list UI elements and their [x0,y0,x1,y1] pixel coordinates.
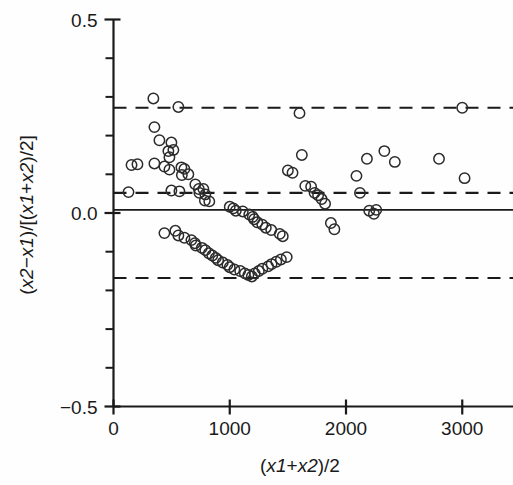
x-axis-title: (x1+x2)/2 [260,455,340,476]
scatter-point [174,186,184,196]
y-axis-tick-label: −0.5 [60,397,98,418]
scatter-point [126,160,136,170]
x-axis-tick-label: 3000 [441,418,483,439]
scatter-point [379,146,389,156]
data-points-group [123,93,469,281]
scatter-point [294,108,304,118]
scatter-point [297,150,307,160]
y-axis-title: (x2−x1)/[(x1+x2)/2] [16,135,37,295]
scatter-point [148,93,158,103]
scatter-point [154,135,164,145]
scatter-point [149,158,159,168]
scatter-point [159,228,169,238]
bland-altman-plot-figure: 0100020003000−0.50.00.5 (x2−x1)/[(x1+x2)… [0,0,513,485]
scatter-point [275,229,285,239]
axis-tick-labels-group: 0100020003000−0.50.00.5 [60,10,483,439]
x-axis-tick-label: 1000 [209,418,251,439]
axes-group [105,20,513,415]
scatter-point [351,171,361,181]
scatter-point [390,157,400,167]
scatter-point [459,173,469,183]
scatter-point [362,154,372,164]
scatter-point [329,224,339,234]
scatter-point [149,122,159,132]
scatter-point [434,154,444,164]
y-axis-tick-label: 0.5 [71,10,97,31]
y-axis-tick-label: 0.0 [71,203,97,224]
scatter-point [326,218,336,228]
x-axis-tick-label: 2000 [325,418,367,439]
scatter-point [238,206,248,216]
plot-canvas: 0100020003000−0.50.00.5 (x2−x1)/[(x1+x2)… [0,0,513,485]
scatter-point [282,252,292,262]
scatter-point [278,231,288,241]
x-axis-tick-label: 0 [108,418,119,439]
scatter-point [179,233,189,243]
